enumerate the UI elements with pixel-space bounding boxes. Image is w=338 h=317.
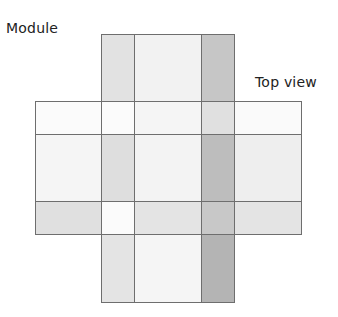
- grid-cell-r2-c0: [35, 134, 102, 202]
- top-view-label: Top view: [255, 74, 317, 90]
- grid-cell-r4-c1: [101, 234, 135, 303]
- grid-cell-r0-c3: [201, 34, 235, 102]
- grid-cell-r1-c2: [134, 101, 202, 135]
- grid-cell-r4-c3: [201, 234, 235, 303]
- grid-cell-r3-c0: [35, 201, 102, 235]
- grid-cell-r2-c4: [234, 134, 302, 202]
- grid-cell-r3-c3: [201, 201, 235, 235]
- grid-cell-r2-c1: [101, 134, 135, 202]
- grid-cell-r1-c4: [234, 101, 302, 135]
- grid-cell-r3-c4: [234, 201, 302, 235]
- grid-cell-r1-c1: [101, 101, 135, 135]
- module-label: Module: [6, 20, 58, 36]
- grid-cell-r3-c1: [101, 201, 135, 235]
- grid-cell-r1-c0: [35, 101, 102, 135]
- grid-cell-r0-c2: [134, 34, 202, 102]
- grid-cell-r3-c2: [134, 201, 202, 235]
- grid-cell-r4-c2: [134, 234, 202, 303]
- grid-cell-r2-c2: [134, 134, 202, 202]
- grid-cell-r1-c3: [201, 101, 235, 135]
- grid-cell-r0-c1: [101, 34, 135, 102]
- grid-cell-r2-c3: [201, 134, 235, 202]
